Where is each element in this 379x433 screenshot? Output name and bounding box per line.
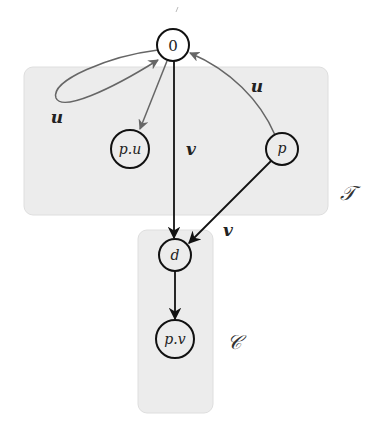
edge-label-0-d-v: v (186, 139, 197, 159)
node-pv-label: p.v (164, 331, 185, 347)
edge-label-p-0-u: u (251, 76, 263, 96)
node-0: 0 (157, 29, 189, 61)
node-pu-label: p.u (119, 141, 141, 157)
edge-label-loop-u: u (51, 107, 63, 127)
region-label-C: 𝒞 (227, 330, 247, 354)
node-0-label: 0 (168, 37, 178, 55)
node-d-label: d (171, 247, 180, 263)
graph-diagram: 0 p.u p d p.v u u v v 𝒯 𝒞 (0, 0, 379, 433)
node-p-label: p (278, 140, 287, 156)
edge-label-p-d-v: v (223, 220, 234, 240)
region-label-T: 𝒯 (340, 181, 362, 205)
stray-mark (176, 7, 178, 12)
